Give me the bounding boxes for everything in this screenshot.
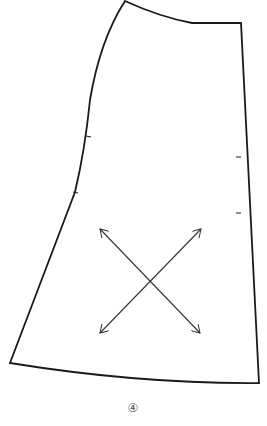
pattern-diagram xyxy=(0,0,267,426)
pattern-outline xyxy=(10,1,259,383)
notch-left-upper xyxy=(86,136,91,137)
notch-marks xyxy=(73,136,241,213)
piece-number-label: ④ xyxy=(122,401,144,415)
